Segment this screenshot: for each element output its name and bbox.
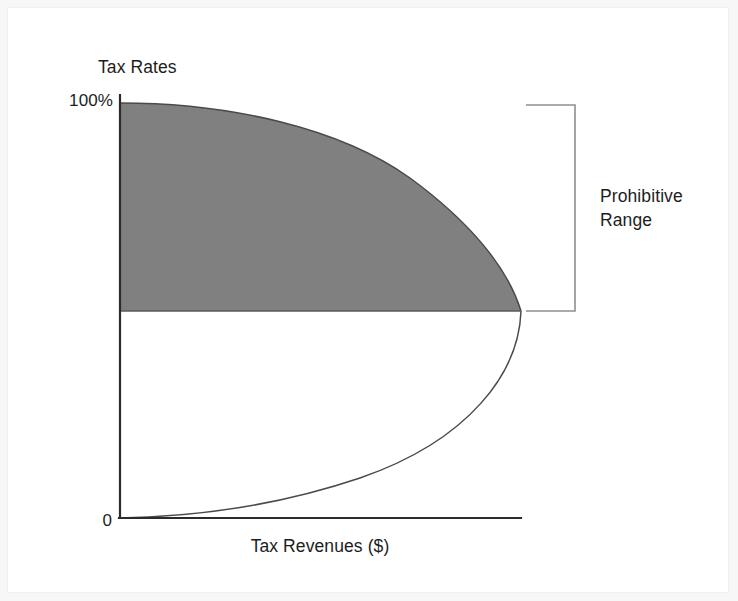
- prohibitive-range-bracket-icon: [526, 105, 575, 311]
- prohibitive-range-label-line1: Prohibitive: [600, 186, 683, 206]
- laffer-curve-chart: Tax Rates 100% 0 Tax Revenues ($) Prohib…: [0, 0, 738, 601]
- y-axis-tick-bottom: 0: [102, 511, 112, 530]
- x-axis-title: Tax Revenues ($): [251, 536, 390, 556]
- y-axis-title: Tax Rates: [98, 57, 177, 77]
- y-axis-tick-top: 100%: [69, 91, 113, 110]
- laffer-curve-lower-branch: [120, 311, 521, 518]
- figure-root: Tax Rates 100% 0 Tax Revenues ($) Prohib…: [0, 0, 738, 601]
- prohibitive-range-label-line2: Range: [600, 210, 652, 230]
